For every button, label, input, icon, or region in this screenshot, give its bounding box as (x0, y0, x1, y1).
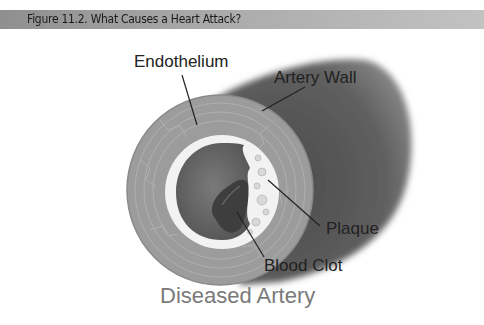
label-endothelium: Endothelium (134, 52, 229, 72)
artery-diagram (0, 0, 484, 325)
label-plaque: Plaque (326, 219, 379, 239)
label-artery-wall: Artery Wall (274, 68, 357, 88)
label-blood-clot: Blood Clot (264, 256, 342, 276)
diagram-caption: Diseased Artery (160, 283, 315, 309)
